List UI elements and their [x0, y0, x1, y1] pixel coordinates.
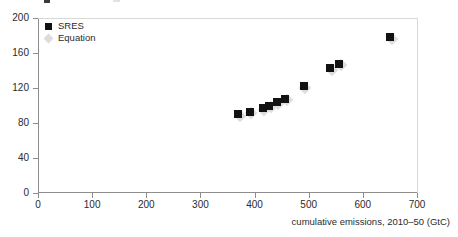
x-axis-tick-label: 300	[192, 200, 209, 210]
x-axis-tick-label: 600	[355, 200, 372, 210]
y-axis-tick-label: 80	[18, 118, 29, 128]
x-axis-tick	[38, 193, 39, 198]
x-axis-title: cumulative emissions, 2010–50 (GtC)	[0, 216, 450, 227]
x-axis-tick-label: 0	[35, 200, 41, 210]
x-axis-tick	[255, 193, 256, 198]
plot-area	[38, 18, 417, 193]
y-axis-tick	[33, 53, 38, 54]
x-axis-tick-label: 400	[246, 200, 263, 210]
y-axis-tick	[33, 123, 38, 124]
x-axis-tick	[363, 193, 364, 198]
chart-legend: SRES Equation	[44, 20, 96, 44]
clipped-glyph-top-left	[44, 0, 50, 3]
y-axis-tick-label: 160	[12, 48, 29, 58]
x-axis-tick	[417, 193, 418, 198]
clipped-glyph-top-right	[113, 0, 120, 2]
y-axis-tick-label: 40	[18, 153, 29, 163]
x-axis-tick	[309, 193, 310, 198]
y-axis-tick-label: 200	[12, 13, 29, 23]
x-axis-tick	[92, 193, 93, 198]
square-marker-icon	[44, 20, 58, 32]
y-axis-tick-label: 120	[12, 83, 29, 93]
x-axis-tick-label: 200	[138, 200, 155, 210]
x-axis-tick-label: 700	[409, 200, 426, 210]
y-axis-tick	[33, 158, 38, 159]
legend-label-equation: Equation	[58, 32, 96, 44]
y-axis-tick	[33, 18, 38, 19]
legend-label-sres: SRES	[58, 20, 84, 32]
x-axis-tick	[200, 193, 201, 198]
x-axis-tick-label: 100	[84, 200, 101, 210]
diamond-marker-icon	[44, 32, 58, 44]
y-axis-tick	[33, 88, 38, 89]
x-axis-tick	[146, 193, 147, 198]
plot-frame-top	[38, 18, 417, 19]
y-axis-tick-label: 0	[23, 188, 29, 198]
legend-item-sres: SRES	[44, 20, 96, 32]
plot-frame-right	[417, 18, 418, 193]
x-axis-tick-label: 500	[300, 200, 317, 210]
scatter-chart-figure: 04080120160200 0100200300400500600700 SR…	[0, 0, 458, 237]
legend-item-equation: Equation	[44, 32, 96, 44]
